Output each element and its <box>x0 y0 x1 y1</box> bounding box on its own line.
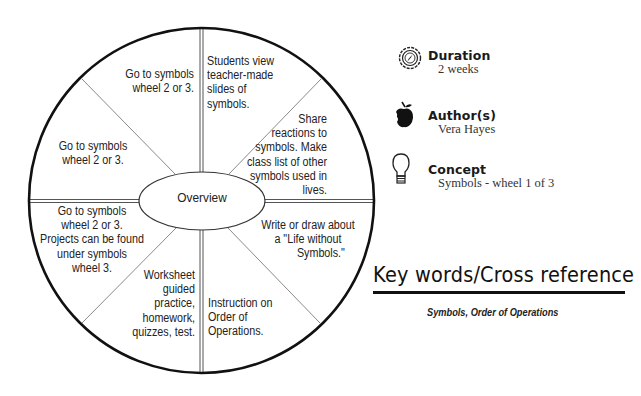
concept-value: Symbols - wheel 1 of 3 <box>438 176 554 191</box>
segment-text: Share <box>207 112 327 126</box>
segment-text: under symbols <box>36 247 148 261</box>
segment-text: guided <box>100 282 195 296</box>
segment-top-right: Students view teacher-made slides of sym… <box>207 54 274 111</box>
authors-label: Author(s) <box>428 108 496 123</box>
segment-top-left: Go to symbols wheel 2 or 3. <box>91 67 194 95</box>
segment-text: Projects can be found <box>36 232 148 246</box>
segment-text: Order of <box>208 310 273 324</box>
keywords-underline <box>373 291 625 294</box>
keywords-heading: Key words/Cross reference <box>373 263 605 287</box>
compass-icon <box>398 46 422 74</box>
keywords-text: Symbols, Order of Operations <box>427 306 558 318</box>
segment-left-upper: Go to symbols wheel 2 or 3. <box>41 139 144 167</box>
segment-left-lower: Go to symbols wheel 2 or 3. Projects can… <box>36 204 148 275</box>
segment-right-lower: Write or draw about a "Life without Symb… <box>256 218 359 261</box>
segment-text: slides of <box>207 82 274 96</box>
segment-text: homework, <box>100 311 195 325</box>
segment-text: Students view <box>207 54 274 68</box>
segment-text: Symbols." <box>256 246 359 260</box>
authors-value: Vera Hayes <box>438 122 495 137</box>
segment-text: Instruction on <box>208 296 273 310</box>
segment-text: symbols. <box>207 97 274 111</box>
segment-text: wheel 2 or 3. <box>36 218 148 232</box>
light-bulb-icon <box>391 152 411 190</box>
segment-text: Go to symbols <box>91 67 194 81</box>
segment-text: quizzes, test. <box>100 325 195 339</box>
segment-text: teacher-made <box>207 68 274 82</box>
segment-bottom-left: Worksheet guided practice, homework, qui… <box>100 268 195 339</box>
segment-text: class list of other <box>207 155 327 169</box>
segment-text: Go to symbols <box>41 139 144 153</box>
segment-text: Write or draw about <box>256 218 359 232</box>
segment-right-upper: Share reactions to symbols. Make class l… <box>207 112 327 197</box>
segment-text: lives. <box>207 183 327 197</box>
duration-value: 2 weeks <box>438 62 479 77</box>
segment-text: symbols. Make <box>207 140 327 154</box>
segment-bottom-right: Instruction on Order of Operations. <box>208 296 273 339</box>
segment-text: a "Life without <box>256 232 359 246</box>
concept-label: Concept <box>428 162 486 177</box>
segment-text: practice, <box>100 296 195 310</box>
segment-text: wheel 3. <box>36 261 148 275</box>
apple-icon <box>393 100 415 134</box>
segment-text: reactions to <box>207 126 327 140</box>
segment-text: Go to symbols <box>36 204 148 218</box>
segment-text: Operations. <box>208 324 273 338</box>
activity-wheel: Overview Go to symbols wheel 2 or 3. Stu… <box>0 0 400 396</box>
segment-text: wheel 2 or 3. <box>41 153 144 167</box>
segment-text: wheel 2 or 3. <box>91 81 194 95</box>
duration-label: Duration <box>428 48 490 63</box>
segment-text: symbols used in <box>207 169 327 183</box>
